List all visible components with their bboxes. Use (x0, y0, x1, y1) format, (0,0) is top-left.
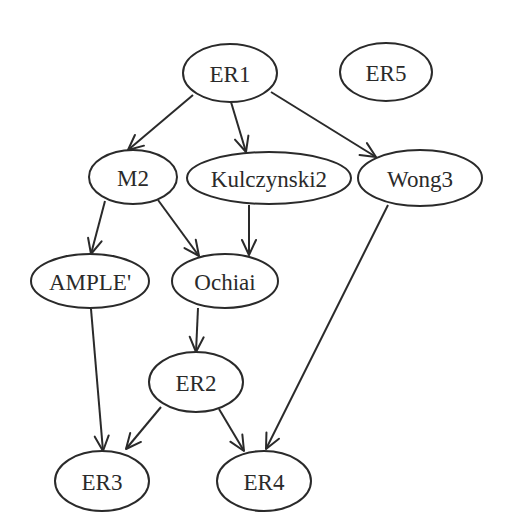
node-er4: ER4 (217, 451, 311, 511)
edge-er1-to-m2 (128, 95, 193, 150)
node-label: Ochiai (194, 270, 255, 295)
node-label: ER2 (176, 371, 217, 396)
node-er5: ER5 (340, 43, 432, 101)
edge-line (126, 407, 161, 449)
node-label: Kulczynski2 (211, 167, 327, 192)
node-ochiai: Ochiai (172, 254, 278, 308)
edge-er1-to-kulczynski2 (231, 102, 248, 152)
edge-er2-to-er4 (219, 409, 244, 451)
node-label: ER5 (366, 61, 407, 86)
node-label: ER1 (210, 62, 251, 87)
edge-m2-to-ample (88, 201, 105, 254)
edge-ochiai-to-er2 (190, 308, 204, 352)
node-er2: ER2 (149, 352, 243, 412)
edge-line (128, 95, 193, 150)
edge-er1-to-wong3 (271, 92, 376, 157)
edge-kulczynski2-to-ochiai (242, 205, 256, 255)
edge-line (266, 205, 388, 449)
edge-wong3-to-er4 (266, 205, 388, 449)
edge-er2-to-er3 (126, 407, 161, 449)
node-label: AMPLE' (49, 270, 131, 295)
node-label: M2 (117, 166, 149, 191)
arrowhead-icon (360, 143, 376, 157)
node-er3: ER3 (55, 451, 149, 511)
node-wong3: Wong3 (358, 150, 482, 206)
edge-m2-to-ochiai (158, 200, 199, 256)
edge-line (158, 200, 199, 256)
node-label: Wong3 (387, 167, 453, 192)
edge-line (219, 409, 244, 451)
edge-line (271, 92, 376, 157)
node-label: ER3 (82, 470, 123, 495)
node-kulczynski2: Kulczynski2 (187, 152, 351, 204)
edge-line (91, 309, 103, 451)
node-er1: ER1 (183, 44, 277, 102)
node-m2: M2 (89, 150, 177, 204)
node-label: ER4 (244, 470, 285, 495)
arrowhead-icon (230, 435, 244, 451)
nodes-layer: ER1ER5M2Kulczynski2Wong3AMPLE'OchiaiER2E… (31, 43, 482, 511)
directed-graph: ER1ER5M2Kulczynski2Wong3AMPLE'OchiaiER2E… (0, 0, 507, 531)
node-ample: AMPLE' (31, 254, 149, 308)
edge-ample-to-er3 (91, 309, 109, 451)
edge-line (196, 308, 198, 352)
